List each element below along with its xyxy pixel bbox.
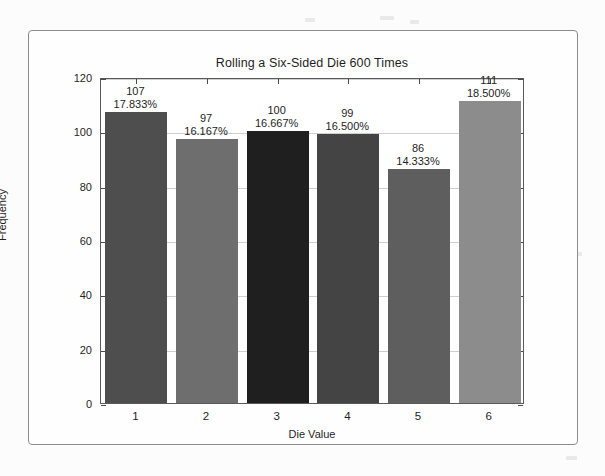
bar-percent-label: 14.333%	[396, 155, 439, 168]
bar-die-1	[105, 112, 167, 403]
y-tick-mark	[101, 79, 106, 80]
x-tick-label: 1	[132, 410, 138, 422]
bar-count-label: 99	[326, 107, 369, 120]
bar-count-label: 100	[255, 104, 298, 117]
bar-annotation-die-3: 10016.667%	[255, 104, 298, 129]
bar-percent-label: 16.500%	[326, 120, 369, 133]
bar-annotation-die-1: 10717.833%	[114, 85, 157, 110]
y-tick-label: 60	[80, 235, 92, 247]
chart-title: Rolling a Six-Sided Die 600 Times	[100, 56, 524, 70]
y-tick-label: 80	[80, 181, 92, 193]
y-tick-label: 100	[74, 126, 92, 138]
bar-die-4	[317, 134, 379, 403]
x-tick-label: 5	[415, 410, 421, 422]
x-tick-mark	[136, 79, 137, 84]
y-tick-label: 0	[86, 398, 92, 410]
bar-die-2	[176, 139, 238, 403]
bar-percent-label: 16.167%	[184, 125, 227, 138]
bar-die-5	[388, 169, 450, 403]
y-tick-label: 120	[74, 72, 92, 84]
x-tick-label: 2	[203, 410, 209, 422]
bar-percent-label: 16.667%	[255, 117, 298, 130]
bar-count-label: 111	[467, 74, 510, 87]
bar-count-label: 107	[114, 85, 157, 98]
y-tick-mark	[518, 79, 523, 80]
bar-annotation-die-4: 9916.500%	[326, 107, 369, 132]
bar-annotation-die-2: 9716.167%	[184, 112, 227, 137]
bar-die-3	[247, 131, 309, 403]
y-axis-tick-labels: 020406080100120	[0, 78, 100, 404]
x-tick-mark	[419, 79, 420, 84]
bar-annotation-die-5: 8614.333%	[396, 142, 439, 167]
y-axis-label: Frequency	[0, 189, 8, 241]
x-tick-label: 6	[485, 410, 491, 422]
x-tick-label: 3	[273, 410, 279, 422]
y-tick-label: 40	[80, 289, 92, 301]
x-tick-mark	[207, 79, 208, 84]
bar-count-label: 97	[184, 112, 227, 125]
x-axis-label: Die Value	[100, 428, 524, 440]
y-tick-label: 20	[80, 344, 92, 356]
page-background: Rolling a Six-Sided Die 600 Times 020406…	[0, 0, 605, 476]
y-tick-mark	[101, 405, 106, 406]
y-tick-mark	[518, 405, 523, 406]
bar-annotation-die-6: 11118.500%	[467, 74, 510, 99]
plot-area	[100, 78, 524, 404]
bar-percent-label: 18.500%	[467, 87, 510, 100]
x-tick-mark	[348, 79, 349, 84]
bar-die-6	[459, 101, 521, 403]
x-tick-label: 4	[344, 410, 350, 422]
bar-percent-label: 17.833%	[114, 98, 157, 111]
gridline	[101, 79, 523, 80]
x-tick-mark	[278, 79, 279, 84]
bar-count-label: 86	[396, 142, 439, 155]
